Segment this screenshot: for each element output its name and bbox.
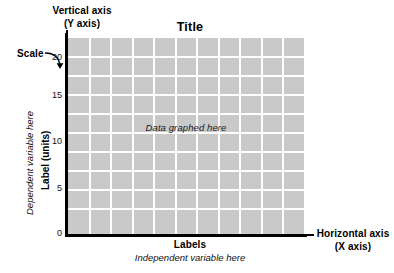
vertical-axis-callout: Vertical axis (Y axis) [26, 5, 138, 30]
plot-area: Data graphed here [68, 38, 304, 235]
x-axis-line [65, 234, 307, 237]
horizontal-axis-callout: Horizontal axis (X axis) [313, 228, 393, 253]
data-graphed-here-note: Data graphed here [68, 122, 304, 133]
y-tick-label-15: 15 [38, 90, 62, 100]
gridline-horizontal [68, 151, 304, 153]
y-tick-label-0: 0 [38, 228, 62, 238]
gridline-vertical [132, 38, 134, 235]
gridline-vertical [239, 38, 241, 235]
gridline-horizontal [68, 208, 304, 210]
y-tick-label-10: 10 [38, 136, 62, 146]
gridline-horizontal [68, 170, 304, 172]
horizontal-axis-callout-line2: (X axis) [313, 241, 393, 254]
gridline-vertical [153, 38, 155, 235]
gridline-horizontal [68, 189, 304, 191]
y-tick-label-5: 5 [38, 183, 62, 193]
graph-anatomy-diagram: Title Vertical axis (Y axis) Scale Depen… [0, 0, 394, 273]
gridline-horizontal [68, 75, 304, 77]
gridline-horizontal [68, 94, 304, 96]
gridline-horizontal [68, 56, 304, 58]
gridline-horizontal [68, 113, 304, 115]
y-axis-variable-label: Dependent variable here [24, 111, 35, 215]
gridline-vertical [282, 38, 284, 235]
x-axis-labels-callout: Labels [110, 239, 270, 250]
gridline-vertical [218, 38, 220, 235]
vertical-axis-callout-line2: (Y axis) [26, 18, 138, 31]
gridline-vertical [196, 38, 198, 235]
x-axis-variable-label: Independent variable here [100, 252, 280, 263]
gridline-vertical [89, 38, 91, 235]
page-title: Title [120, 20, 260, 34]
gridline-vertical [110, 38, 112, 235]
gridline-vertical [261, 38, 263, 235]
y-tick-label-20: 20 [38, 52, 62, 62]
horizontal-axis-callout-line1: Horizontal axis [313, 228, 393, 241]
y-axis-line [65, 33, 68, 236]
vertical-axis-callout-line1: Vertical axis [26, 5, 138, 18]
gridline-vertical [175, 38, 177, 235]
